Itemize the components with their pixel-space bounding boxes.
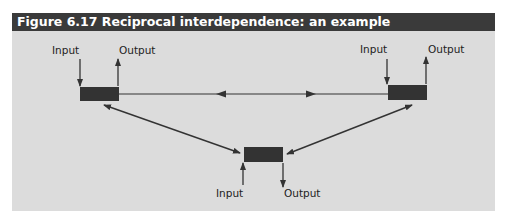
right-output-label: Output <box>428 43 464 55</box>
connection-right-bottom <box>287 105 412 154</box>
right-unit-box <box>388 85 427 100</box>
right-input-label: Input <box>360 43 387 55</box>
left-unit-box <box>80 87 119 101</box>
reciprocal-interdependence-diagram: Input Output Input Output Input Output <box>0 0 509 218</box>
bottom-unit: Input Output <box>216 147 320 199</box>
bottom-output-label: Output <box>284 187 320 199</box>
left-output-label: Output <box>119 44 155 56</box>
left-input-label: Input <box>52 44 79 56</box>
bottom-unit-box <box>244 147 283 162</box>
connection-left-right <box>119 91 388 98</box>
bottom-input-label: Input <box>216 187 243 199</box>
connection-left-bottom <box>104 105 240 153</box>
left-unit: Input Output <box>52 44 155 101</box>
right-unit: Input Output <box>360 43 464 100</box>
